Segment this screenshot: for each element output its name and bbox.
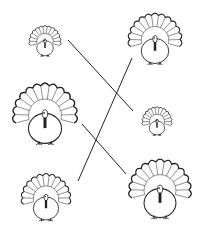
matching-worksheet [0, 0, 199, 244]
connection-line-l3-r1 [78, 58, 132, 181]
turkey-wattle-icon [154, 42, 157, 51]
turkey-head-icon [44, 39, 47, 43]
turkey-wattle-icon [45, 200, 47, 208]
turkey-left-l1[interactable] [29, 26, 61, 57]
turkey-left-l3[interactable] [21, 174, 71, 222]
turkey-head-icon [44, 194, 48, 200]
turkey-head-icon [156, 119, 159, 123]
turkey-illustrations [13, 13, 192, 221]
turkey-head-icon [42, 110, 47, 118]
turkey-right-r1[interactable] [128, 13, 182, 65]
turkey-wattle-icon [44, 118, 47, 129]
turkey-left-l2[interactable] [13, 83, 78, 145]
connection-line-l1-r2 [68, 40, 133, 111]
turkey-wattle-icon [44, 43, 46, 48]
turkey-head-icon [157, 185, 162, 193]
turkey-head-icon [153, 36, 158, 43]
connection-line-l2-r3 [82, 124, 126, 174]
turkey-wattle-icon [156, 123, 157, 128]
turkey-right-r2[interactable] [142, 107, 172, 136]
turkey-right-r3[interactable] [129, 159, 192, 219]
turkey-wattle-icon [159, 193, 162, 203]
worksheet-canvas [0, 0, 199, 244]
